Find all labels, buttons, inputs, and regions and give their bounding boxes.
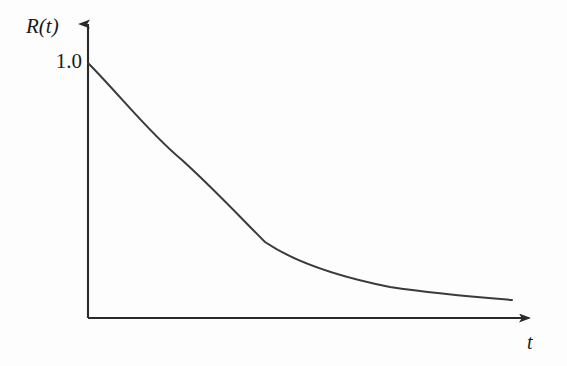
- figure-container: R(t) 1.0 t: [0, 0, 567, 366]
- y-axis-label: R(t): [26, 16, 59, 37]
- x-axis-label: t: [527, 332, 533, 352]
- axis-group: [88, 24, 529, 318]
- plot-canvas: [0, 0, 567, 366]
- reliability-decay-curve: [88, 63, 512, 300]
- y-axis-tick-label-one: 1.0: [30, 51, 82, 72]
